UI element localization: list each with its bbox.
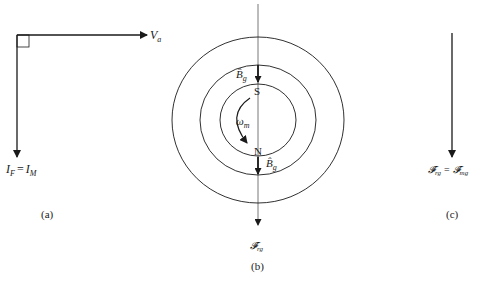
- mmf-equality-label: 𝓕̂rg=𝓕̂mg: [428, 164, 469, 177]
- current-equality-label: IF=IM: [5, 162, 38, 178]
- voltage-label: Va: [150, 28, 161, 44]
- north-pole-label: N: [254, 145, 262, 157]
- panel-a-caption: (a): [41, 208, 54, 221]
- diagram-canvas: Va IF=IM (a) S N ωm B̂g B̂g 𝓕̂rg (b) 𝓕̂r…: [0, 0, 484, 281]
- panel-b-machine-cross-section: S N ωm B̂g B̂g 𝓕̂rg (b): [172, 4, 344, 273]
- flux-density-top-label: B̂g: [236, 68, 247, 83]
- panel-c-caption: (c): [446, 208, 459, 221]
- rotor-mmf-label: 𝓕̂rg: [250, 240, 263, 253]
- right-angle-marker: [17, 35, 29, 47]
- south-pole-label: S: [254, 85, 260, 97]
- panel-b-caption: (b): [251, 260, 264, 273]
- flux-density-bottom-label: B̂g: [266, 157, 277, 172]
- panel-a-phasor-diagram: Va IF=IM (a): [5, 28, 161, 221]
- panel-c-mmf-phasor: 𝓕̂rg=𝓕̂mg (c): [428, 33, 469, 221]
